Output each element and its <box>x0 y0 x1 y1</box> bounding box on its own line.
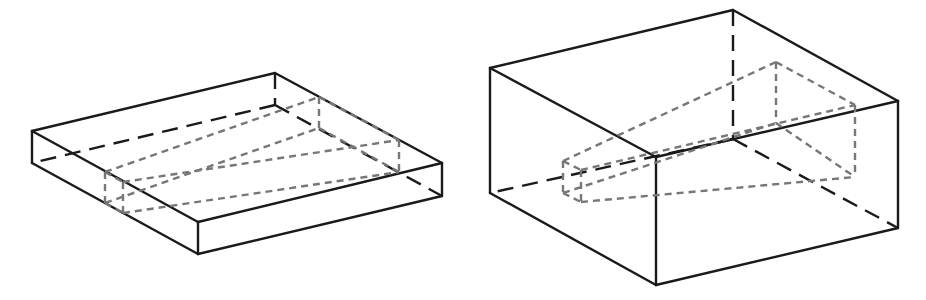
right-tall-box <box>490 10 898 285</box>
box-wedge-diagram <box>0 0 926 300</box>
box-edge <box>490 193 656 285</box>
wedge-edge <box>123 140 399 182</box>
box-edge <box>198 163 442 222</box>
wedge-edge <box>563 193 581 202</box>
box-edge <box>198 196 442 254</box>
box-edge <box>656 228 898 285</box>
wedge-edge <box>776 62 855 105</box>
wedge-edge <box>563 123 776 193</box>
wedge-edge <box>563 161 581 170</box>
box-edge <box>490 68 656 157</box>
left-slab-box <box>32 73 442 254</box>
wedge-edge <box>581 177 855 202</box>
wedge-edge <box>105 97 319 172</box>
wedge-edge <box>105 128 319 203</box>
box-edge <box>656 101 898 157</box>
hidden-edge <box>490 139 733 193</box>
hidden-edge <box>733 139 898 228</box>
box-edge <box>733 10 898 101</box>
box-edge <box>490 10 733 68</box>
diagram-canvas <box>0 0 926 300</box>
box-edge <box>32 73 275 131</box>
